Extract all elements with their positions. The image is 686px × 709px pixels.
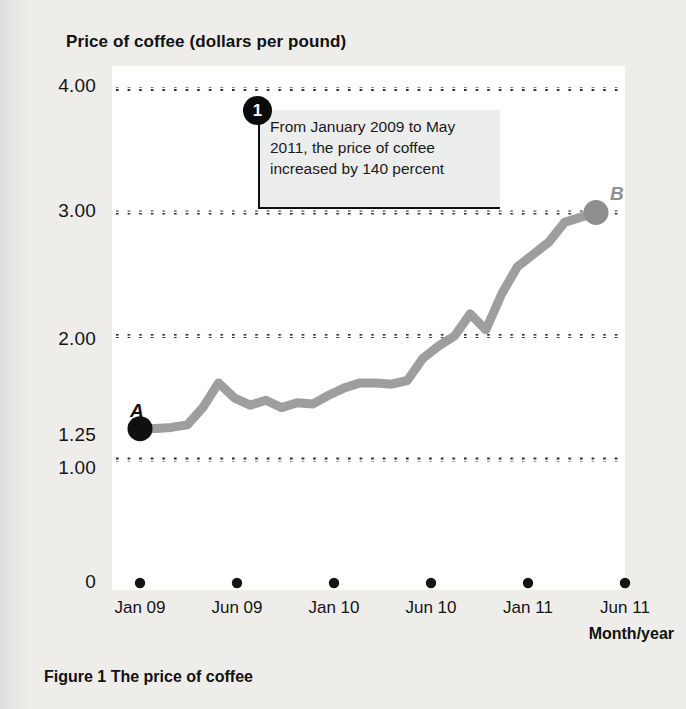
marker-point-b (584, 200, 609, 225)
y-tick-label-1: 1.00 (34, 457, 96, 479)
caption-divider (18, 652, 670, 653)
y-tick-label-0: 0 (34, 571, 96, 593)
gridline-3-00 (112, 211, 625, 215)
x-tick-label-jun-09: Jun 09 (191, 598, 283, 618)
callout-text: From January 2009 to May 2011, the price… (270, 116, 494, 179)
point-b-label: B (610, 183, 624, 205)
price-line-series (140, 213, 596, 429)
callout-badge: 1 (243, 96, 272, 125)
figure-container: Price of coffee (dollars per pound) (0, 0, 686, 709)
y-tick-label-3: 3.00 (34, 200, 96, 222)
x-tick-label-jan-11: Jan 11 (482, 598, 574, 618)
y-tick-label-2: 2.00 (34, 328, 96, 350)
x-tick-label-jan-10: Jan 10 (288, 598, 380, 618)
gridline-1-00 (112, 458, 625, 462)
x-axis-title: Month/year (589, 625, 674, 643)
gridline-4-00 (112, 87, 625, 91)
gridline-2-00 (112, 334, 625, 338)
point-a-label: A (130, 400, 144, 422)
x-tick-label-jan-09: Jan 09 (94, 598, 186, 618)
figure-caption: Figure 1 The price of coffee (44, 668, 253, 686)
y-tick-label-1-25: 1.25 (34, 424, 96, 446)
x-tick-label-jun-10: Jun 10 (385, 598, 477, 618)
x-axis-tick-markers (135, 578, 630, 588)
y-tick-label-4: 4.00 (34, 75, 96, 97)
x-tick-label-jun-11: Jun 11 (579, 598, 671, 618)
